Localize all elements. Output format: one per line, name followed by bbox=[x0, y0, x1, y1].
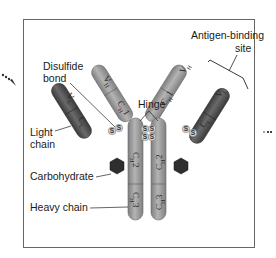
outgoing-dotted-line bbox=[263, 131, 272, 133]
svg-text:S: S bbox=[184, 125, 189, 132]
svg-text:S: S bbox=[191, 129, 196, 136]
svg-text:S: S bbox=[150, 125, 155, 132]
heavy-chain-label: Heavy chain bbox=[30, 201, 88, 213]
antigen-binding-site-label-2: site bbox=[235, 42, 252, 54]
svg-text:S: S bbox=[117, 124, 122, 131]
svg-text:S: S bbox=[110, 127, 115, 134]
antigen-binding-site-label: Antigen-binding bbox=[191, 29, 264, 41]
hinge-label: Hinge bbox=[138, 98, 166, 110]
disulfide-bond-label-2: bond bbox=[43, 72, 67, 84]
light-chain-label-2: chain bbox=[30, 138, 55, 150]
svg-text:2: 2 bbox=[154, 155, 164, 160]
svg-text:3: 3 bbox=[131, 203, 141, 208]
svg-text:2: 2 bbox=[131, 163, 141, 168]
svg-text:S: S bbox=[143, 125, 148, 132]
carbohydrate-label: Carbohydrate bbox=[30, 170, 94, 182]
svg-text:S: S bbox=[143, 133, 148, 140]
disulfide-bond-label: Disulfide bbox=[43, 60, 83, 72]
antibody-diagram: V H C H 1 V H C H 1 C H 2 C H 2 C H bbox=[0, 0, 276, 258]
svg-text:3: 3 bbox=[154, 194, 164, 199]
incoming-arrow-icon bbox=[2, 74, 16, 86]
light-chain-label: Light bbox=[30, 126, 53, 138]
svg-text:S: S bbox=[150, 133, 155, 140]
